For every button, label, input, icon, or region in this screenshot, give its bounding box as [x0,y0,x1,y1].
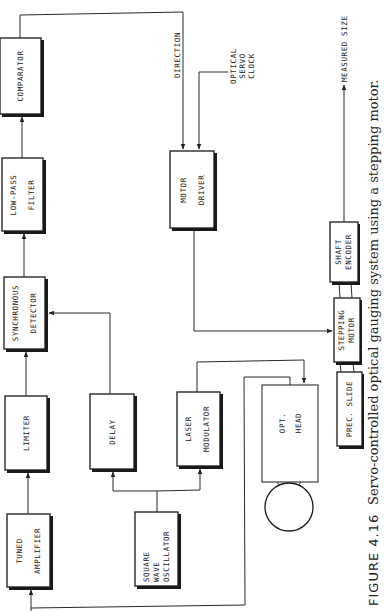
label-square: SQUARE [142,551,151,582]
label-stepping: STEPPING [337,310,346,351]
block-delay: DELAY [90,394,137,472]
block-tuned-amplifier: TUNED AMPLIFIER [7,514,53,590]
block-comparator: COMPARATOR [0,38,44,117]
label-motor-sm: MOTOR [347,317,356,343]
block-opt-head: OPT. HEAD [262,385,318,482]
label-servo: SERVO [238,53,247,79]
label-measured-size: MEASURED SIZE [340,16,349,83]
wire-comparator-to-motor-driver [20,12,183,149]
label-prec-slide: PREC. SLIDE [345,381,354,437]
block-limiter: LIMITER [5,396,50,473]
block-synchronous-detector: SYNCHRONOUS DETECTOR [4,277,48,352]
wire-oscillator-to-laser-mod [157,469,200,491]
label-tuned: TUNED [15,538,24,564]
label-detector: DETECTOR [29,293,38,334]
figure-caption: Servo-controlled optical gauging system … [366,79,381,505]
label-motor: MOTOR [179,177,188,203]
block-low-pass-filter: LOW-PASS FILTER [2,158,46,234]
label-wave: WAVE [152,562,161,582]
label-opt: OPT. [278,413,287,433]
label-low-pass: LOW-PASS [9,175,18,216]
coupling-encoder-motor [339,283,352,298]
wire-motor-driver-to-stepping-motor [194,229,332,331]
block-shaft-encoder: SHAFT ENCODER [330,222,360,285]
label-limiter: LIMITER [22,415,31,451]
label-comparator: COMPARATOR [16,50,25,101]
label-amplifier: AMPLIFIER [33,528,42,574]
label-shaft: SHAFT [334,239,343,265]
block-laser-modulator: LASER MODULATOR [177,392,223,469]
label-encoder: ENCODER [344,234,353,270]
wire-oscillator-to-delay [113,472,157,491]
label-modulator: MODULATOR [202,406,211,452]
block-prec-slide: PREC. SLIDE [337,372,364,449]
label-laser: LASER [184,416,193,442]
figure-number: FIGURE 4.16 [366,514,381,606]
label-driver: DRIVER [197,175,206,206]
block-diagram: COMPARATOR LOW-PASS FILTER SYNCHRONOUS D… [0,0,384,611]
label-clock: CLOCK [247,53,256,79]
label-filter: FILTER [27,180,36,211]
label-direction: DIRECTION [173,32,182,78]
block-square-wave-oscillator: SQUARE WAVE OSCILLATOR [135,512,181,589]
wire-clock-to-motor-driver [199,72,228,149]
label-delay: DELAY [108,419,117,445]
workpiece-circle [265,483,313,531]
label-synchronous: SYNCHRONOUS [11,285,20,341]
label-oscillator: OSCILLATOR [162,531,171,582]
wire-delay-to-syncdet [49,313,110,394]
label-optical: OPTICAL [229,48,238,84]
label-head: HEAD [294,413,303,433]
block-motor-driver: MOTOR DRIVER [170,151,217,231]
block-stepping-motor: STEPPING MOTOR [334,298,362,365]
